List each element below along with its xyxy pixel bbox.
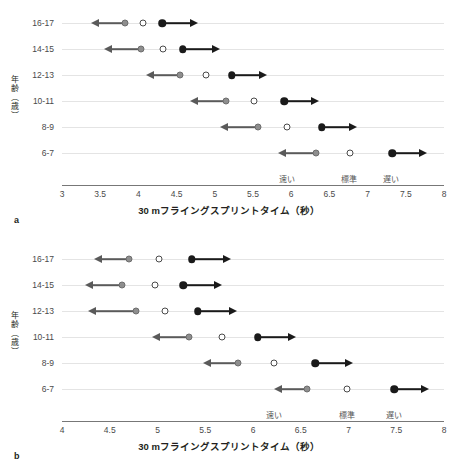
x-axis-title-b: 30 mフライングスプリントタイム（秒） [0, 439, 458, 453]
marker-fast-cutoff [234, 360, 241, 367]
marker-slow-cutoff [318, 123, 326, 131]
marker-slow-cutoff [188, 255, 196, 263]
gridline-row [62, 389, 444, 390]
x-tick-label: 6 [289, 189, 294, 199]
marker-fast-cutoff [223, 98, 230, 105]
y-tick-label: 14-15 [10, 44, 54, 54]
marker-fast-cutoff [254, 124, 261, 131]
y-tick-label: 10-11 [10, 96, 54, 106]
x-tick-label: 6.5 [295, 425, 307, 435]
x-axis-title-a: 30 mフライングスプリントタイム（秒） [0, 203, 458, 217]
marker-slow-cutoff [391, 385, 399, 393]
y-tick-label: 12-13 [10, 306, 54, 316]
zone-label-fast: 速い [279, 173, 295, 184]
marker-fast-cutoff [125, 256, 132, 263]
x-tick-label: 5 [155, 425, 160, 435]
marker-fast-cutoff [313, 150, 320, 157]
zone-label-standard: 標準 [341, 173, 357, 184]
panel-letter-a: a [14, 215, 19, 225]
zone-label-fast: 速い [266, 409, 282, 420]
marker-standard-mean [139, 20, 146, 27]
gridline-row [62, 153, 444, 154]
chart-panel-a: 年齢（歳） 16-1714-1512-1310-118-96-7速い標準遅い 3… [0, 0, 458, 232]
x-tick-label: 4.5 [104, 425, 116, 435]
marker-standard-mean [347, 150, 354, 157]
marker-standard-mean [156, 256, 163, 263]
y-tick-label: 6-7 [10, 148, 54, 158]
marker-standard-mean [159, 46, 166, 53]
x-tick-label: 6 [251, 425, 256, 435]
marker-standard-mean [219, 334, 226, 341]
chart-panel-b: 年齢（歳） 16-1714-1512-1310-118-96-7速い標準遅い 4… [0, 236, 458, 468]
marker-fast-cutoff [186, 334, 193, 341]
marker-standard-mean [202, 72, 209, 79]
y-tick-label: 6-7 [10, 384, 54, 394]
zone-label-slow: 遅い [386, 409, 402, 420]
gridline-row [62, 363, 444, 364]
plot-area-b: 16-1714-1512-1310-118-96-7速い標準遅い [62, 246, 444, 406]
y-tick-label: 14-15 [10, 280, 54, 290]
x-tick-label: 6.5 [323, 189, 335, 199]
marker-fast-cutoff [304, 386, 311, 393]
x-tick-label: 4 [60, 425, 65, 435]
marker-standard-mean [162, 308, 169, 315]
marker-fast-cutoff [137, 46, 144, 53]
marker-fast-cutoff [122, 20, 129, 27]
x-tick-label: 3 [60, 189, 65, 199]
x-tick-label: 4 [136, 189, 141, 199]
y-tick-label: 10-11 [10, 332, 54, 342]
y-tick-label: 8-9 [10, 122, 54, 132]
marker-fast-cutoff [133, 308, 140, 315]
x-tick-label: 7 [346, 425, 351, 435]
plot-area-a: 16-1714-1512-1310-118-96-7速い標準遅い [62, 10, 444, 170]
x-tick-label: 7.5 [400, 189, 412, 199]
y-tick-label: 8-9 [10, 358, 54, 368]
x-tick-label: 8 [442, 425, 447, 435]
x-tick-label: 5 [212, 189, 217, 199]
marker-slow-cutoff [180, 281, 188, 289]
x-tick-label: 4.5 [171, 189, 183, 199]
marker-standard-mean [151, 282, 158, 289]
marker-standard-mean [343, 386, 350, 393]
x-tick-label: 7.5 [390, 425, 402, 435]
marker-slow-cutoff [254, 333, 262, 341]
y-tick-label: 12-13 [10, 70, 54, 80]
gridline-row [62, 337, 444, 338]
marker-slow-cutoff [179, 45, 187, 53]
x-tick-label: 5.5 [247, 189, 259, 199]
marker-slow-cutoff [388, 149, 396, 157]
marker-slow-cutoff [158, 19, 166, 27]
marker-slow-cutoff [228, 71, 236, 79]
x-axis-line-a [62, 185, 444, 186]
y-tick-label: 16-17 [10, 254, 54, 264]
marker-fast-cutoff [119, 282, 126, 289]
marker-slow-cutoff [281, 97, 289, 105]
marker-fast-cutoff [177, 72, 184, 79]
zone-label-standard: 標準 [339, 409, 355, 420]
marker-slow-cutoff [311, 359, 319, 367]
x-tick-label: 7 [365, 189, 370, 199]
panel-letter-b: b [14, 451, 20, 461]
zone-label-slow: 遅い [383, 173, 399, 184]
marker-standard-mean [284, 124, 291, 131]
marker-slow-cutoff [194, 307, 202, 315]
x-tick-label: 5.5 [199, 425, 211, 435]
x-tick-label: 3.5 [94, 189, 106, 199]
x-axis-line-b [62, 421, 444, 422]
x-tick-label: 8 [442, 189, 447, 199]
marker-standard-mean [271, 360, 278, 367]
y-tick-label: 16-17 [10, 18, 54, 28]
marker-standard-mean [250, 98, 257, 105]
